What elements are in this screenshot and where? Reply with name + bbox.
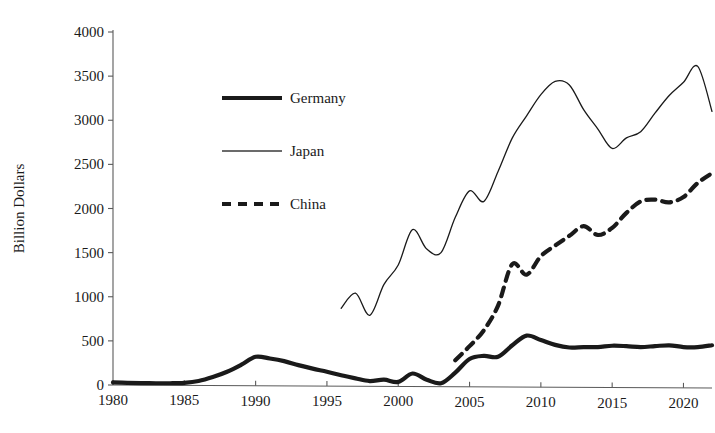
x-tick-label: 2000	[383, 393, 413, 409]
y-tick-label: 3000	[74, 112, 104, 128]
y-tick-label: 3500	[74, 68, 104, 84]
line-chart: 0500100015002000250030003500400019801985…	[0, 0, 715, 433]
series-line-japan	[341, 66, 712, 316]
x-tick-label: 2010	[526, 394, 556, 410]
legend-label-japan: Japan	[290, 143, 325, 159]
x-tick-label: 1990	[241, 393, 271, 409]
x-tick-label: 1980	[98, 392, 128, 408]
x-tick-label: 2005	[455, 394, 485, 410]
y-tick-label: 4000	[74, 24, 104, 40]
y-tick-label: 0	[97, 377, 105, 393]
y-tick-label: 1000	[74, 289, 104, 305]
x-tick-label: 1995	[312, 393, 342, 409]
x-tick-label: 1985	[169, 392, 199, 408]
x-tick-label: 2015	[597, 395, 627, 411]
y-tick-label: 2500	[74, 156, 104, 172]
legend-label-germany: Germany	[290, 90, 346, 106]
chart-container: 0500100015002000250030003500400019801985…	[0, 0, 715, 433]
series-line-germany	[113, 335, 712, 383]
y-tick-label: 1500	[74, 245, 104, 261]
y-axis-title: Billion Dollars	[11, 164, 27, 254]
x-axis-line	[113, 385, 712, 388]
legend-label-china: China	[290, 196, 326, 212]
series-line-china	[455, 173, 712, 360]
y-tick-label: 2000	[74, 201, 104, 217]
x-tick-label: 2020	[668, 395, 698, 411]
y-tick-label: 500	[82, 333, 105, 349]
